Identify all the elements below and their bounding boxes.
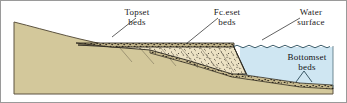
- label-water-surface: Water surface: [282, 7, 340, 27]
- delta-cross-section-figure: Topset beds Fc.eset beds Water surface B…: [0, 0, 347, 103]
- label-bottomset-beds: Bottomset beds: [272, 52, 342, 72]
- label-bottomset-line1: Bottomset: [272, 52, 342, 62]
- label-foreset-beds: Fc.eset beds: [196, 7, 258, 27]
- label-topset-line2: beds: [108, 17, 166, 27]
- label-foreset-line1: Fc.eset: [196, 7, 258, 17]
- label-water-line1: Water: [282, 7, 340, 17]
- label-foreset-line2: beds: [196, 17, 258, 27]
- label-water-line2: surface: [282, 17, 340, 27]
- label-bottomset-line2: beds: [272, 62, 342, 72]
- label-topset-line1: Topset: [108, 7, 166, 17]
- label-topset-beds: Topset beds: [108, 7, 166, 27]
